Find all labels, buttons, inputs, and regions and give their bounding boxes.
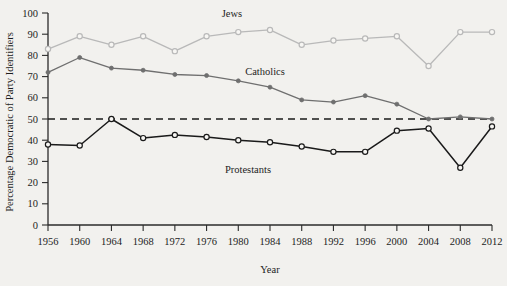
data-point	[268, 85, 272, 89]
data-point	[172, 132, 177, 137]
data-point	[205, 74, 209, 78]
x-tick-label: 1968	[133, 236, 154, 247]
data-point	[426, 126, 431, 131]
data-point	[45, 142, 50, 147]
data-point	[141, 135, 146, 140]
data-point	[267, 27, 272, 32]
data-point	[77, 34, 82, 39]
data-point	[394, 34, 399, 39]
data-point	[458, 165, 463, 170]
x-tick-label: 2004	[418, 236, 440, 247]
y-tick-label: 30	[28, 156, 39, 167]
x-tick-label: 1964	[101, 236, 123, 247]
data-point	[204, 34, 209, 39]
data-point	[141, 68, 145, 72]
data-point	[141, 34, 146, 39]
line-chart: Percentage Democratic of Party Identifie…	[0, 0, 507, 286]
data-point	[489, 29, 494, 34]
x-tick-label: 1960	[69, 236, 90, 247]
y-tick-label: 100	[22, 8, 38, 19]
data-point	[331, 38, 336, 43]
x-axis-title: Year	[260, 264, 280, 275]
data-point	[458, 29, 463, 34]
data-point	[299, 144, 304, 149]
data-point	[236, 29, 241, 34]
x-tick-label: 1972	[164, 236, 185, 247]
data-point	[109, 66, 113, 70]
x-tick-label: 1988	[291, 236, 312, 247]
data-point	[45, 46, 50, 51]
data-point	[426, 63, 431, 68]
data-point	[490, 117, 494, 121]
x-tick-label: 2000	[386, 236, 407, 247]
data-point	[236, 79, 240, 83]
series-label-jews: Jews	[222, 8, 242, 19]
data-point	[363, 149, 368, 154]
data-point	[300, 98, 304, 102]
data-point	[427, 117, 431, 121]
x-tick-label: 2012	[482, 236, 503, 247]
y-tick-label: 90	[28, 29, 39, 40]
data-point	[109, 42, 114, 47]
data-point	[109, 116, 114, 121]
data-point	[331, 100, 335, 104]
data-point	[172, 49, 177, 54]
data-point	[236, 138, 241, 143]
data-point	[173, 72, 177, 76]
data-point	[395, 102, 399, 106]
data-point	[363, 36, 368, 41]
y-tick-label: 70	[28, 71, 39, 82]
series-label-catholics: Catholics	[245, 66, 285, 77]
y-tick-label: 0	[33, 220, 38, 231]
y-tick-label: 60	[28, 92, 39, 103]
x-tick-label: 1956	[38, 236, 59, 247]
y-tick-label: 80	[28, 50, 39, 61]
y-tick-label: 50	[28, 114, 39, 125]
y-tick-label: 20	[28, 177, 39, 188]
data-point	[394, 128, 399, 133]
data-point	[458, 115, 462, 119]
data-point	[46, 70, 50, 74]
chart-figure: Percentage Democratic of Party Identifie…	[0, 0, 507, 286]
x-tick-label: 1976	[196, 236, 217, 247]
series-label-protestants: Protestants	[225, 164, 271, 175]
data-point	[299, 42, 304, 47]
data-point	[489, 124, 494, 129]
data-point	[77, 143, 82, 148]
data-point	[204, 134, 209, 139]
y-tick-label: 40	[28, 135, 39, 146]
data-point	[78, 56, 82, 60]
data-point	[331, 149, 336, 154]
data-point	[363, 94, 367, 98]
y-tick-label: 10	[28, 198, 39, 209]
x-tick-label: 1984	[260, 236, 282, 247]
data-point	[267, 140, 272, 145]
x-tick-label: 1980	[228, 236, 249, 247]
x-tick-label: 1996	[355, 236, 376, 247]
x-tick-label: 2008	[450, 236, 471, 247]
x-tick-label: 1992	[323, 236, 344, 247]
y-axis-title: Percentage Democratic of Party Identifie…	[4, 32, 15, 212]
